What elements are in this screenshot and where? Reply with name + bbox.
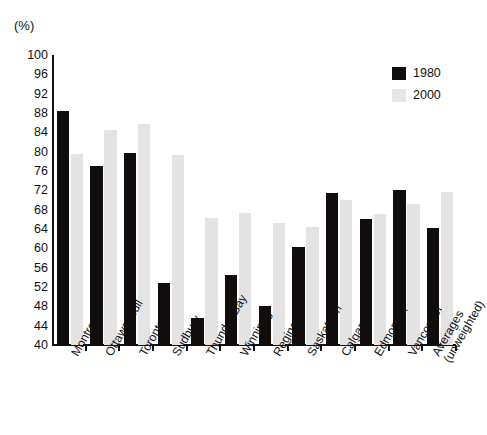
x-axis-tick-mark: [152, 346, 154, 351]
y-axis-tick-76: 76: [14, 165, 48, 178]
y-axis-tick-48: 48: [14, 300, 48, 313]
x-axis-tick-mark: [421, 346, 423, 351]
legend-item-2000: 2000: [392, 86, 441, 104]
y-axis-tick-72: 72: [14, 184, 48, 197]
bar-1980-montreal: [57, 111, 70, 345]
bar-2000-thunder-bay: [205, 218, 218, 345]
bar-2000-ottawa-hull: [104, 130, 117, 345]
y-axis-tick-40: 40: [14, 339, 48, 352]
legend-item-1980: 1980: [392, 64, 441, 82]
y-axis-tick-68: 68: [14, 204, 48, 217]
bar-2000-winnipeg: [239, 213, 252, 345]
y-axis-tick-92: 92: [14, 88, 48, 101]
y-axis-tick-56: 56: [14, 262, 48, 275]
y-axis-tick-84: 84: [14, 126, 48, 139]
x-axis-tick-mark: [388, 346, 390, 351]
y-axis-tick-labels: 100969288848076726864605652484440: [8, 55, 48, 346]
bar-2000-edmonton: [374, 214, 387, 345]
x-axis-tick-mark: [219, 346, 221, 351]
x-axis-tick-mark: [354, 346, 356, 351]
legend-label-1980: 1980: [413, 67, 441, 80]
chart-legend: 1980 2000: [392, 64, 441, 108]
x-axis-tick-mark: [455, 346, 457, 351]
legend-label-2000: 2000: [413, 89, 441, 102]
x-axis-tick-mark: [186, 346, 188, 351]
y-axis-tick-52: 52: [14, 281, 48, 294]
legend-swatch-1980-icon: [392, 67, 406, 80]
y-axis-tick-64: 64: [14, 223, 48, 236]
bar-2000-montreal: [71, 154, 84, 345]
bar-2000-vancouver: [407, 204, 420, 345]
x-axis-tick-mark: [320, 346, 322, 351]
y-axis-tick-96: 96: [14, 68, 48, 81]
y-axis-tick-60: 60: [14, 242, 48, 255]
bar-2000-calgary: [340, 200, 353, 345]
legend-swatch-2000-icon: [392, 89, 406, 102]
x-axis-tick-mark: [287, 346, 289, 351]
x-axis-tick-mark: [253, 346, 255, 351]
y-axis-tick-80: 80: [14, 146, 48, 159]
y-axis-tick-88: 88: [14, 107, 48, 120]
bar-2000-sudbury: [172, 155, 185, 345]
x-axis-tick-mark: [85, 346, 87, 351]
y-axis-tick-44: 44: [14, 320, 48, 333]
x-axis-tick-mark: [118, 346, 120, 351]
y-axis-tick-100: 100: [14, 49, 48, 62]
y-axis-unit-label: (%): [14, 18, 34, 33]
